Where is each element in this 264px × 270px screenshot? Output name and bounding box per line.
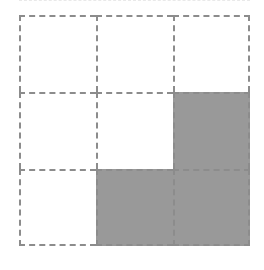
shaded-grid-figure: [19, 15, 250, 246]
grid-cell-r1-c2: [96, 15, 173, 92]
grid-cell-r3-c1: [19, 169, 96, 246]
grid-cell-r2-c3: [173, 92, 250, 169]
clipped-dashed-row-remnant: [19, 0, 250, 3]
grid-cell-r1-c3: [173, 15, 250, 92]
grid-cell-r2-c1: [19, 92, 96, 169]
grid-cell-r3-c3: [173, 169, 250, 246]
grid-cell-r2-c2: [96, 92, 173, 169]
grid-cell-r3-c2: [96, 169, 173, 246]
grid-cell-r1-c1: [19, 15, 96, 92]
